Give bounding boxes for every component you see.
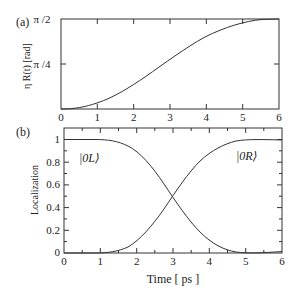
x-tick-label: 3 (167, 111, 173, 123)
figure: (a) π /2 π /4 0 1 2 3 4 5 6 η (0, 0, 298, 294)
eta-r-curve (61, 19, 279, 109)
x-tick-label: 0 (61, 255, 67, 267)
y-tick-label: 0.4 (46, 201, 60, 213)
y-tick-label: 0 (55, 246, 61, 258)
x-tick-label: 4 (207, 255, 213, 267)
x-tick-label: 3 (170, 255, 176, 267)
legend-0R: |0R⟩ (236, 149, 257, 163)
x-tick-label: 5 (243, 255, 249, 267)
y-tick-label-pi-4: π /4 (34, 58, 51, 70)
panel-label-a: (a) (16, 15, 29, 29)
y-tick-label: 0.6 (46, 178, 60, 190)
y-axis-title-b: Localization (29, 165, 40, 215)
legend-0L: |0L⟩ (79, 151, 100, 165)
x-ticks-a (97, 19, 242, 109)
x-tick-label: 5 (240, 111, 246, 123)
x-tick-label: 1 (95, 111, 101, 123)
x-tick-label: 4 (204, 111, 210, 123)
panel-b: (b) 1 0.8 0.6 0.4 0.2 0 (16, 125, 285, 286)
x-tick-label: 6 (279, 255, 285, 267)
y-tick-label-pi-2: π /2 (34, 13, 51, 25)
x-axis-title-b: Time [ ps ] (147, 272, 200, 286)
plot-frame-b (64, 128, 282, 253)
y-axis-title-a: η R(t) [rad] (21, 43, 33, 89)
x-tick-label: 6 (276, 111, 282, 123)
x-tick-label: 2 (134, 255, 140, 267)
panel-a: (a) π /2 π /4 0 1 2 3 4 5 6 η (16, 13, 282, 123)
x-tick-label: 1 (98, 255, 104, 267)
y-tick-label: 1 (55, 133, 61, 145)
y-tick-label: 0.2 (46, 224, 60, 236)
x-ticks-b (82, 128, 264, 253)
x-tick-label: 2 (131, 111, 137, 123)
plot-frame-a (61, 19, 279, 109)
panel-label-b: (b) (16, 125, 30, 139)
x-tick-label: 0 (58, 111, 64, 123)
y-tick-label: 0.8 (46, 156, 60, 168)
